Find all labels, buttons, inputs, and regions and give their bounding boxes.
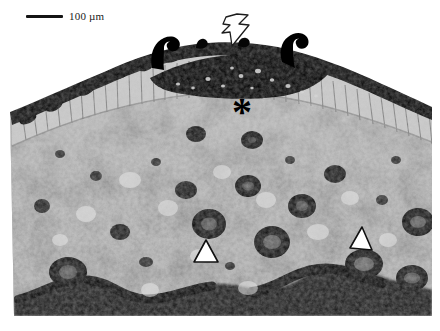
scale-bar-line [26,15,63,18]
arrowhead-left-annotation [191,236,221,266]
arrowhead-right-annotation [346,224,376,254]
micrograph-figure: 100 µm [0,0,440,331]
scale-bar: 100 µm [26,11,104,22]
scale-bar-label: 100 µm [69,11,104,22]
asterisk-annotation: * [232,92,252,132]
zigzag-arrow-annotation [218,12,252,60]
